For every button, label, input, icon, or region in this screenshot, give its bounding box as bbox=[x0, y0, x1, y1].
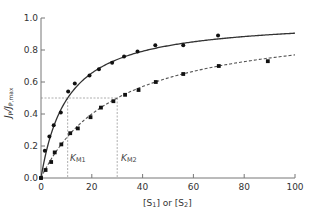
x-tick-label: 40 bbox=[137, 182, 149, 192]
data-point-s2 bbox=[44, 168, 48, 172]
data-point-s2 bbox=[49, 160, 53, 164]
y-tick-label: 0.6 bbox=[24, 77, 39, 87]
data-point-s2 bbox=[123, 93, 127, 97]
data-point-s1 bbox=[52, 123, 56, 127]
data-point-s2 bbox=[76, 127, 80, 131]
y-tick-label: 0.4 bbox=[24, 109, 39, 119]
x-tick-label: 100 bbox=[286, 182, 303, 192]
data-point-s2 bbox=[68, 131, 72, 135]
data-point-s1 bbox=[47, 134, 51, 138]
x-tick-label: 60 bbox=[188, 182, 200, 192]
data-point-s2 bbox=[111, 99, 115, 103]
data-point-s1 bbox=[122, 54, 126, 58]
axes: 0204060801000.00.20.40.60.81.0 bbox=[24, 13, 304, 192]
y-tick-label: 0.0 bbox=[24, 173, 39, 183]
data-point-s1 bbox=[216, 34, 220, 38]
michaelis-menten-chart: 0204060801000.00.20.40.60.81.0 KM1 KM2 [… bbox=[0, 0, 314, 222]
data-point-s1 bbox=[136, 50, 140, 54]
data-point-s2 bbox=[217, 64, 221, 68]
data-point-s1 bbox=[110, 61, 114, 65]
y-axis-title: JP/JP,max bbox=[3, 87, 14, 120]
y-tick-label: 1.0 bbox=[24, 13, 39, 23]
data-point-s2 bbox=[59, 143, 63, 147]
data-point-s1 bbox=[153, 43, 157, 47]
data-point-s1 bbox=[73, 82, 77, 86]
data-point-s2 bbox=[181, 72, 185, 76]
data-point-s1 bbox=[97, 67, 101, 71]
data-point-s2 bbox=[99, 106, 103, 110]
data-point-s2 bbox=[53, 151, 57, 155]
data-point-s1 bbox=[88, 74, 92, 78]
km1-label: KM1 bbox=[70, 153, 86, 164]
x-tick-label: 20 bbox=[86, 182, 98, 192]
data-point-s2 bbox=[39, 176, 43, 180]
x-tick-label: 0 bbox=[38, 182, 44, 192]
y-tick-label: 0.2 bbox=[24, 141, 38, 151]
km2-label: KM2 bbox=[121, 153, 137, 164]
x-axis-title: [S1] or [S2] bbox=[143, 198, 192, 209]
data-point-s2 bbox=[266, 59, 270, 63]
guide-lines bbox=[41, 98, 117, 178]
y-tick-label: 0.8 bbox=[24, 45, 39, 55]
data-point-s2 bbox=[89, 115, 93, 119]
data-point-s2 bbox=[137, 88, 141, 92]
data-point-s2 bbox=[154, 80, 158, 84]
data-point-s1 bbox=[59, 110, 63, 114]
x-tick-label: 80 bbox=[238, 182, 250, 192]
data-point-s1 bbox=[43, 149, 47, 153]
data-point-s1 bbox=[66, 90, 70, 94]
data-point-s1 bbox=[181, 43, 185, 47]
